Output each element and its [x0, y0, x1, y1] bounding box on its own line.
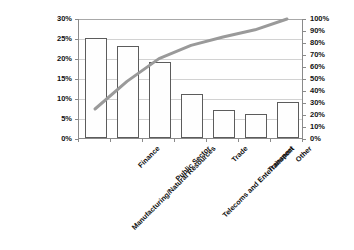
- category-label-transport: Transport: [266, 144, 296, 174]
- right-axis: 100% 90% 80% 70% 60% 50% 40% 30% 20% 10%…: [310, 0, 350, 250]
- right-axis-tick-label: 30%: [310, 99, 325, 107]
- bar-public-sector: [149, 62, 171, 138]
- right-axis-tick-label: 50%: [310, 75, 325, 83]
- left-axis-tick-label: 5%: [61, 115, 72, 123]
- left-axis-tick-label: 0%: [61, 135, 72, 143]
- right-tick-10: [303, 127, 306, 128]
- bar-manufacturing-natural-resources: [85, 38, 107, 138]
- bar-other: [277, 102, 299, 138]
- right-tick-30: [303, 103, 306, 104]
- x-tick-1: [110, 139, 111, 142]
- plot-area: [78, 19, 303, 139]
- right-tick-70: [303, 55, 306, 56]
- left-tick-20: [75, 59, 78, 60]
- gridline-25: [79, 39, 302, 40]
- right-tick-20: [303, 115, 306, 116]
- left-tick-5: [75, 119, 78, 120]
- right-tick-60: [303, 67, 306, 68]
- x-tick-5: [238, 139, 239, 142]
- category-label-public-sector: Public Sector: [173, 144, 212, 183]
- x-tick-2: [142, 139, 143, 142]
- right-axis-tick-label: 100%: [310, 15, 329, 23]
- right-axis-tick-label: 20%: [310, 111, 325, 119]
- gridline-20: [79, 59, 302, 60]
- right-axis-tick-label: 10%: [310, 123, 325, 131]
- bar-finance: [117, 46, 139, 138]
- left-axis: 30% 25% 20% 15% 10% 5% 0%: [46, 0, 72, 250]
- bar-trade: [213, 110, 235, 138]
- left-axis-tick-label: 30%: [57, 15, 72, 23]
- x-tick-0: [78, 139, 79, 142]
- x-tick-7: [302, 139, 303, 142]
- left-axis-tick-label: 10%: [57, 95, 72, 103]
- right-tick-100: [303, 19, 306, 20]
- left-axis-tick-label: 20%: [57, 55, 72, 63]
- x-tick-4: [206, 139, 207, 142]
- bar-transport: [245, 114, 267, 138]
- right-axis-tick-label: 70%: [310, 51, 325, 59]
- category-label-manufacturing-natural-resources: Manufacturing/Natural Resources: [130, 144, 218, 232]
- right-axis-tick-label: 40%: [310, 87, 325, 95]
- right-tick-90: [303, 31, 306, 32]
- right-tick-40: [303, 91, 306, 92]
- x-tick-6: [270, 139, 271, 142]
- category-label-trade: Trade: [230, 144, 250, 164]
- left-tick-25: [75, 39, 78, 40]
- left-axis-tick-label: 15%: [57, 75, 72, 83]
- gridline-15: [79, 79, 302, 80]
- gridline-30: [79, 19, 302, 20]
- left-tick-15: [75, 79, 78, 80]
- x-tick-3: [174, 139, 175, 142]
- right-axis-tick-label: 60%: [310, 63, 325, 71]
- right-tick-0: [303, 139, 306, 140]
- category-label-finance: Finance: [136, 144, 162, 170]
- right-axis-tick-label: 90%: [310, 27, 325, 35]
- left-axis-tick-label: 25%: [57, 35, 72, 43]
- category-label-telecoms-and-entertainment: Telecoms and Entertainment: [221, 144, 296, 219]
- right-axis-tick-label: 0%: [310, 135, 321, 143]
- pareto-chart: 30% 25% 20% 15% 10% 5% 0% 100% 90% 80% 7…: [0, 0, 354, 250]
- right-tick-80: [303, 43, 306, 44]
- right-tick-50: [303, 79, 306, 80]
- bar-telecoms-and-entertainment: [181, 94, 203, 138]
- left-tick-30: [75, 19, 78, 20]
- right-axis-tick-label: 80%: [310, 39, 325, 47]
- left-tick-10: [75, 99, 78, 100]
